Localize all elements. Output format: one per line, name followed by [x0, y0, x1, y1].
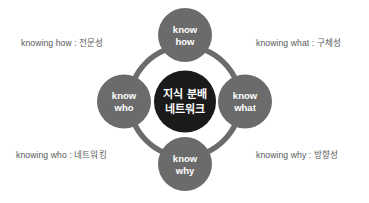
caption-knowing-how: knowing how : 전문성 — [21, 38, 104, 48]
node-know-what-label-line1: know — [233, 90, 258, 101]
center-hub-label-line1: 지식 분배 — [163, 87, 206, 100]
diagram-canvas: 지식 분배 네트워크 know how know what know why k… — [0, 0, 369, 203]
node-know-how-label-line1: know — [173, 24, 198, 35]
center-hub-circle — [154, 71, 216, 133]
node-know-what-label-line2: what — [233, 102, 256, 113]
node-know-why-label-line1: know — [173, 153, 198, 164]
node-know-who-label-line2: who — [114, 102, 134, 113]
node-know-why-label-line2: why — [175, 165, 195, 176]
node-know-who-label-line1: know — [112, 90, 137, 101]
center-hub-label-line2: 네트워크 — [165, 102, 205, 115]
knowledge-distribution-network-diagram: 지식 분배 네트워크 know how know what know why k… — [0, 0, 369, 203]
caption-knowing-who: knowing who : 네트워킹 — [16, 150, 107, 160]
node-know-how-label-line2: how — [176, 36, 196, 47]
caption-knowing-why: knowing why : 방향성 — [256, 150, 338, 160]
caption-knowing-what: knowing what : 구체성 — [256, 38, 341, 48]
